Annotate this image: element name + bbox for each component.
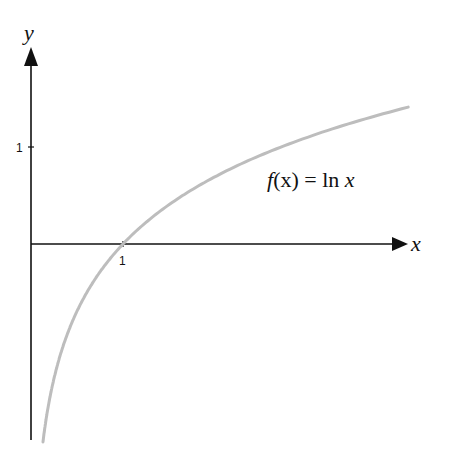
x-axis-label: x xyxy=(410,231,421,256)
y-axis-arrow-icon xyxy=(24,47,38,66)
ln-graph: y x 1 1 f(x) = ln x xyxy=(0,0,452,455)
ln-curve xyxy=(43,107,408,442)
x-tick-label: 1 xyxy=(119,254,126,268)
function-label: f(x) = ln x xyxy=(267,167,355,192)
y-tick-label: 1 xyxy=(16,141,23,155)
y-axis-label: y xyxy=(22,20,34,45)
x-axis-arrow-icon xyxy=(392,237,408,251)
